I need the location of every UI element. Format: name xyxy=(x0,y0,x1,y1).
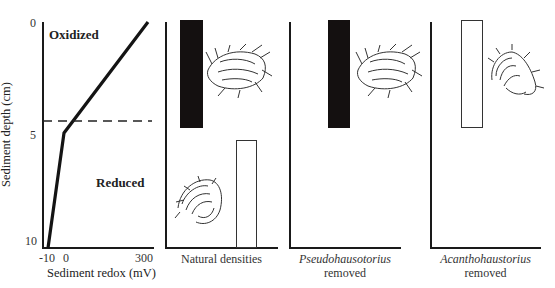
acanthohaustorius-sketch-2 xyxy=(488,44,544,95)
acanthohaustorius-sketch-1 xyxy=(175,176,222,224)
panel3-caption: Pseudohausotorius removed xyxy=(289,252,401,280)
panel4-caption-line1: Acanthohaustorius xyxy=(440,252,531,266)
acanthohaustorius-bar xyxy=(461,20,483,128)
pseudohaustorius-sketch-2 xyxy=(356,44,422,98)
redox-profile-line xyxy=(48,22,148,248)
panel2-caption-line1: Natural densities xyxy=(181,252,262,266)
panel3-y-axis xyxy=(289,22,291,249)
panel4-y-axis xyxy=(430,22,432,249)
pseudohaustorius-sketch-1 xyxy=(206,44,272,98)
acanthohaustorius-bar xyxy=(236,140,257,248)
panel4-caption: Acanthohaustorius removed xyxy=(430,252,541,280)
panel4-x-axis xyxy=(430,247,541,249)
panel2-x-axis xyxy=(165,247,278,249)
panel4-caption-line2: removed xyxy=(465,266,507,280)
panel3-x-axis xyxy=(289,247,401,249)
panel2-caption: Natural densities xyxy=(165,252,278,266)
pseudohaustorius-bar xyxy=(180,20,203,128)
panel2-y-axis xyxy=(165,22,167,249)
panel3-caption-line2: removed xyxy=(324,266,366,280)
panel3-caption-line1: Pseudohausotorius xyxy=(299,252,391,266)
pseudohaustorius-bar xyxy=(328,20,350,128)
